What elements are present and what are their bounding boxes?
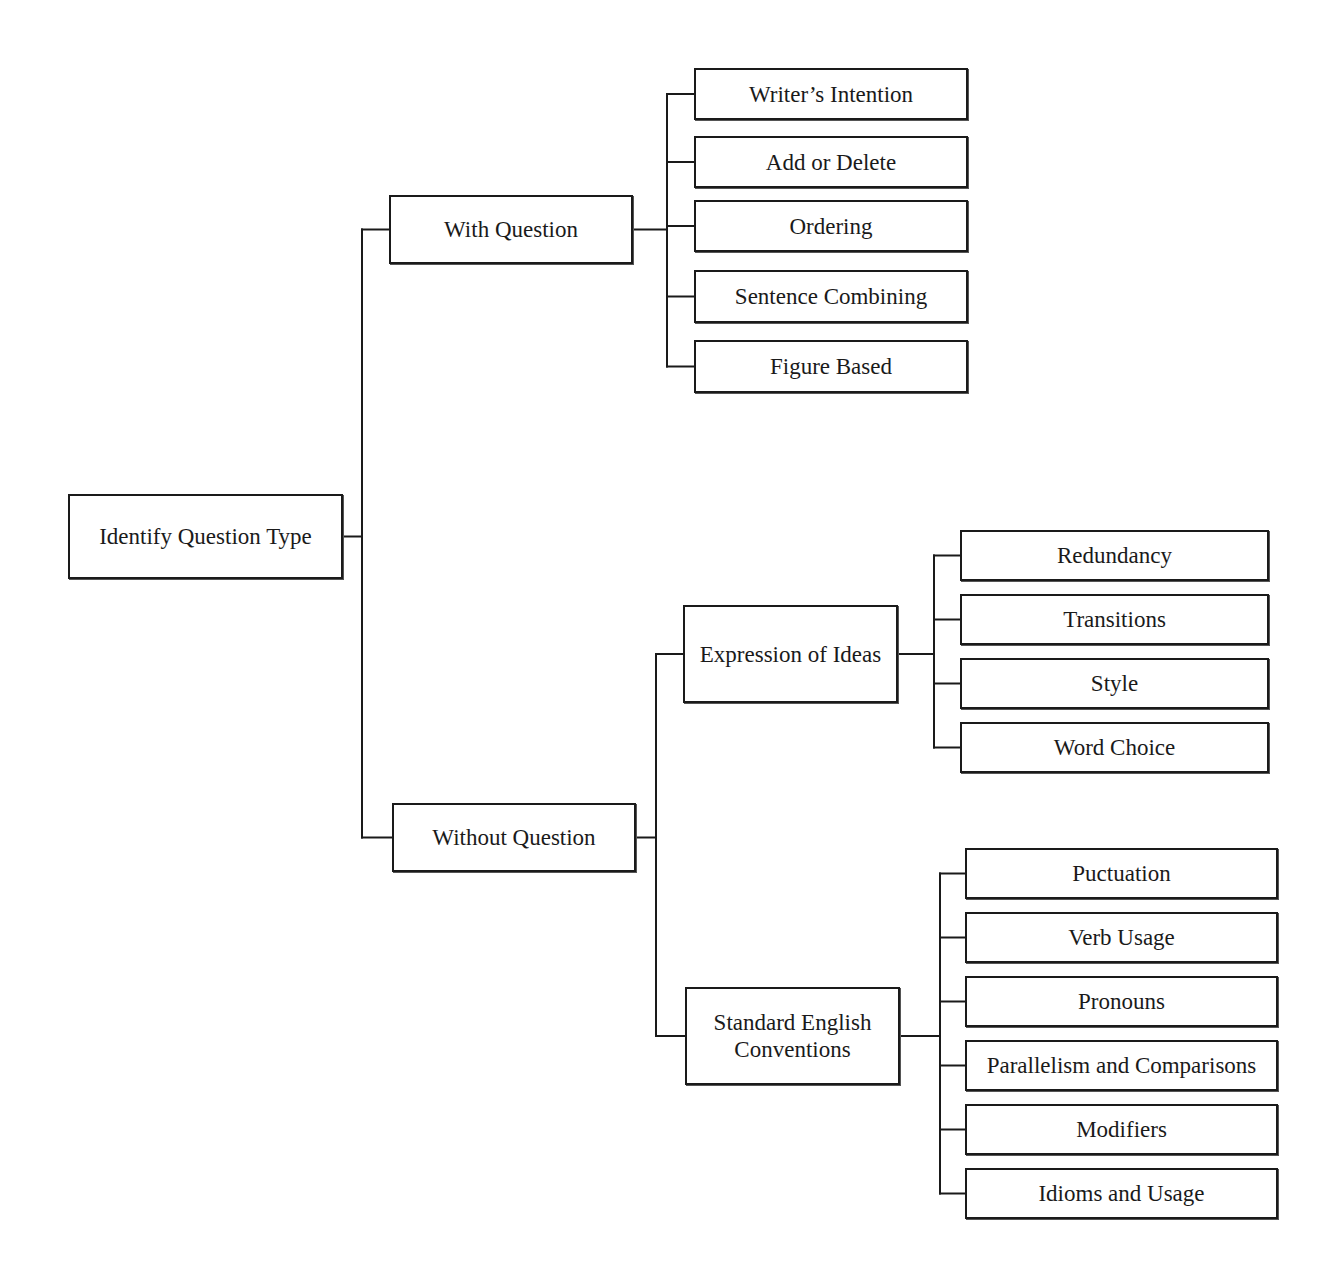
node-with-question: With Question: [389, 195, 633, 264]
node-label: Standard English Conventions: [714, 1009, 872, 1063]
node-label: Parallelism and Comparisons: [987, 1052, 1257, 1079]
node-expression-of-ideas: Expression of Ideas: [683, 605, 898, 703]
node-ordering: Ordering: [694, 200, 968, 252]
node-standard-english-conventions: Standard English Conventions: [685, 987, 900, 1085]
node-label: Figure Based: [770, 353, 892, 380]
node-label: Transitions: [1063, 606, 1166, 633]
node-modifiers: Modifiers: [965, 1104, 1278, 1155]
node-label: Redundancy: [1057, 542, 1172, 569]
node-add-or-delete: Add or Delete: [694, 136, 968, 188]
node-transitions: Transitions: [960, 594, 1269, 645]
node-word-choice: Word Choice: [960, 722, 1269, 773]
node-label: Pronouns: [1078, 988, 1165, 1015]
node-sentence-combining: Sentence Combining: [694, 270, 968, 323]
node-label: Verb Usage: [1068, 924, 1175, 951]
node-label: Add or Delete: [766, 149, 896, 176]
node-label: Word Choice: [1054, 734, 1175, 761]
node-label: Ordering: [789, 213, 872, 240]
node-label: Style: [1091, 670, 1138, 697]
question-type-tree-diagram: Identify Question Type With Question Wit…: [0, 0, 1338, 1278]
node-label: Without Question: [432, 824, 595, 851]
node-figure-based: Figure Based: [694, 340, 968, 393]
node-puctuation: Puctuation: [965, 848, 1278, 899]
node-identify-question-type: Identify Question Type: [68, 494, 343, 579]
node-without-question: Without Question: [392, 803, 636, 872]
node-label: Writer’s Intention: [749, 81, 913, 108]
node-label: Idioms and Usage: [1038, 1180, 1204, 1207]
node-idioms-and-usage: Idioms and Usage: [965, 1168, 1278, 1219]
node-writers-intention: Writer’s Intention: [694, 68, 968, 120]
node-label: Puctuation: [1072, 860, 1170, 887]
node-label: Sentence Combining: [735, 283, 927, 310]
node-pronouns: Pronouns: [965, 976, 1278, 1027]
node-label: Modifiers: [1076, 1116, 1167, 1143]
node-label: Expression of Ideas: [700, 641, 881, 668]
node-label: With Question: [444, 216, 578, 243]
node-style: Style: [960, 658, 1269, 709]
node-redundancy: Redundancy: [960, 530, 1269, 581]
node-parallelism-and-comparisons: Parallelism and Comparisons: [965, 1040, 1278, 1091]
node-verb-usage: Verb Usage: [965, 912, 1278, 963]
node-label: Identify Question Type: [99, 523, 312, 550]
